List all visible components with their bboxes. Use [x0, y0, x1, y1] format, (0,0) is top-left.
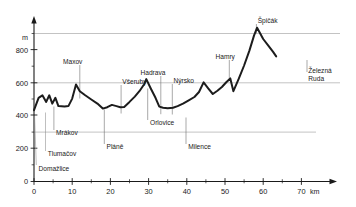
y-tick-label-600: 600 [16, 79, 28, 88]
y-tick-label-0: 0 [24, 177, 28, 186]
y-axis-unit-label: m [22, 33, 28, 42]
label-mrakov: Mrákov [56, 129, 78, 136]
elevation-profile-chart: 0 200 400 600 800 m 0 [0, 0, 356, 207]
annotation-leaders [35, 24, 307, 165]
chart-canvas: 0 200 400 600 800 m 0 [0, 0, 356, 207]
x-tick-label-70: 70 [297, 187, 305, 196]
label-hadrava: Hadrava [141, 69, 166, 76]
y-tick-label-200: 200 [16, 144, 28, 153]
x-tick-label-30: 30 [144, 187, 152, 196]
leader-domazlice [35, 117, 37, 166]
x-tick-label-40: 40 [183, 187, 191, 196]
x-tick-label-10: 10 [68, 187, 76, 196]
x-tick-label-0: 0 [32, 187, 36, 196]
x-tick-label-50: 50 [221, 187, 229, 196]
label-orlovice: Orlovice [150, 119, 175, 126]
label-tlumacov: Tlumačov [48, 150, 77, 157]
label-milence: Milence [188, 143, 211, 150]
label-maxov: Maxov [63, 58, 83, 65]
x-axis: 0 10 20 30 40 50 60 70 km [32, 178, 337, 196]
y-axis: 0 200 400 600 800 m [16, 16, 38, 186]
x-axis-unit-label: km [310, 187, 320, 196]
label-domazlice: Domažlice [39, 165, 70, 172]
label-vseruby: Všeruby [122, 78, 147, 86]
x-tick-label-20: 20 [106, 187, 114, 196]
label-plane: Pláně [107, 143, 124, 150]
y-tick-label-800: 800 [16, 46, 28, 55]
x-axis-arrow [330, 179, 338, 184]
label-zelezna: Železná [308, 66, 332, 74]
label-nyrsko: Nýrsko [174, 77, 195, 85]
label-ruda: Ruda [308, 75, 324, 82]
label-hamry: Hamry [216, 53, 236, 61]
x-tick-label-60: 60 [259, 187, 267, 196]
label-spicak: Špičák [258, 16, 278, 25]
y-axis-arrow [31, 16, 36, 24]
y-tick-label-400: 400 [16, 111, 28, 120]
